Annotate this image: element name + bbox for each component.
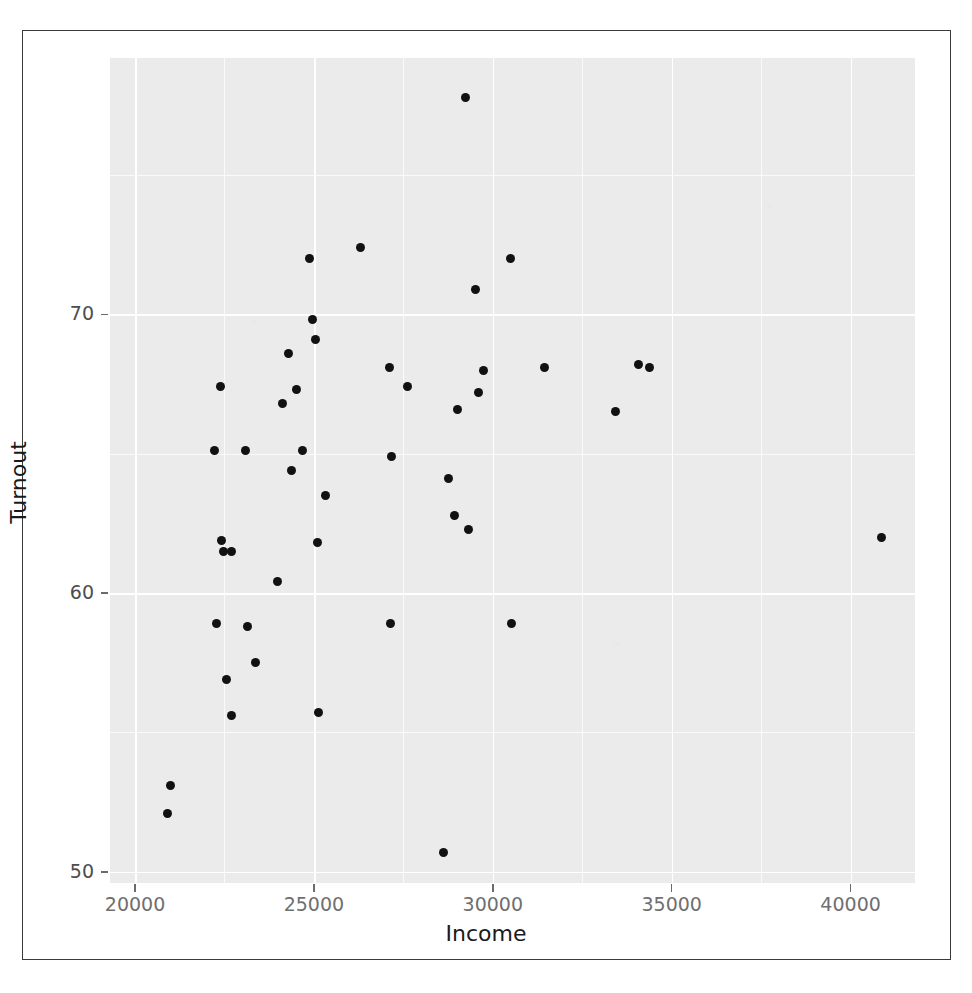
gridline-vertical-major <box>851 58 853 883</box>
plot-panel <box>110 58 915 883</box>
data-point <box>311 335 320 344</box>
data-point <box>439 848 448 857</box>
data-point <box>877 533 886 542</box>
gridline-vertical-minor <box>582 58 583 883</box>
data-point <box>278 399 287 408</box>
data-point <box>507 619 516 628</box>
gridline-horizontal-minor <box>110 454 915 455</box>
y-tick-mark <box>101 871 108 872</box>
data-point <box>222 675 231 684</box>
gridline-vertical-major <box>314 58 316 883</box>
data-point <box>634 360 643 369</box>
data-point <box>313 538 322 547</box>
gridline-vertical-major <box>493 58 495 883</box>
data-point <box>611 407 620 416</box>
data-point <box>212 619 221 628</box>
data-point <box>385 363 394 372</box>
x-tick-mark <box>313 884 314 892</box>
y-axis-label: Turnout <box>6 333 31 633</box>
x-tick-label: 30000 <box>463 893 523 915</box>
paper-texture <box>110 58 915 883</box>
data-point <box>305 254 314 263</box>
data-point <box>461 93 470 102</box>
x-tick-label: 40000 <box>820 893 880 915</box>
data-point <box>163 809 172 818</box>
data-point <box>645 363 654 372</box>
gridline-horizontal-major <box>110 314 915 316</box>
data-point <box>471 285 480 294</box>
data-point <box>273 577 282 586</box>
gridline-horizontal-major <box>110 872 915 874</box>
data-point <box>287 466 296 475</box>
data-point <box>464 525 473 534</box>
x-tick-label: 25000 <box>284 893 344 915</box>
data-point <box>444 474 453 483</box>
x-tick-label: 35000 <box>641 893 701 915</box>
gridline-vertical-major <box>135 58 137 883</box>
data-point <box>453 405 462 414</box>
data-point <box>479 366 488 375</box>
gridline-vertical-major <box>672 58 674 883</box>
data-point <box>314 708 323 717</box>
y-tick-label: 70 <box>70 302 94 324</box>
x-axis-label: Income <box>0 921 972 946</box>
gridline-vertical-minor <box>403 58 404 883</box>
x-tick-mark <box>492 884 493 892</box>
data-point <box>292 385 301 394</box>
data-point <box>386 619 395 628</box>
data-point <box>217 536 226 545</box>
data-point <box>356 243 365 252</box>
x-tick-label: 20000 <box>105 893 165 915</box>
gridline-horizontal-major <box>110 593 915 595</box>
gridline-horizontal-minor <box>110 732 915 733</box>
data-point <box>227 711 236 720</box>
data-point <box>284 349 293 358</box>
y-tick-label: 60 <box>70 581 94 603</box>
data-point <box>506 254 515 263</box>
x-tick-mark <box>850 884 851 892</box>
data-point <box>540 363 549 372</box>
data-point <box>474 388 483 397</box>
scatter-plot-figure: Income Turnout 7060502000025000300003500… <box>0 0 972 993</box>
data-point <box>403 382 412 391</box>
data-point <box>243 622 252 631</box>
data-point <box>251 658 260 667</box>
y-tick-label: 50 <box>70 860 94 882</box>
y-tick-mark <box>101 314 108 315</box>
gridline-vertical-minor <box>761 58 762 883</box>
y-tick-mark <box>101 592 108 593</box>
data-point <box>321 491 330 500</box>
x-tick-mark <box>671 884 672 892</box>
data-point <box>227 547 236 556</box>
data-point <box>166 781 175 790</box>
gridline-horizontal-minor <box>110 175 915 176</box>
data-point <box>450 511 459 520</box>
gridline-vertical-minor <box>224 58 225 883</box>
data-point <box>387 452 396 461</box>
x-tick-mark <box>134 884 135 892</box>
